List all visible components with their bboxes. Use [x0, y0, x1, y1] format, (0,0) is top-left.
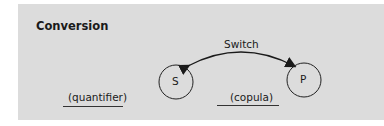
copula-label: (copula) — [230, 91, 273, 103]
copula-blank-line — [217, 105, 279, 106]
predicate-letter: P — [300, 73, 306, 85]
quantifier-blank-line — [63, 106, 123, 107]
subject-letter: S — [172, 75, 179, 87]
conversion-diagram — [0, 0, 384, 126]
quantifier-label: (quantifier) — [68, 91, 127, 103]
switch-arrow — [188, 52, 294, 66]
